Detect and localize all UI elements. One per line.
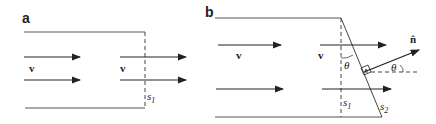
surface-s1-label: s1 bbox=[343, 96, 351, 111]
theta-label: θ bbox=[391, 61, 397, 73]
angle-arc-icon bbox=[341, 55, 353, 58]
surface-s1-label: s1 bbox=[147, 90, 155, 105]
panel-b: b v v θ n̂ θ s1 s2 bbox=[205, 4, 420, 117]
panel-b-label: b bbox=[205, 4, 214, 20]
theta-label: θ bbox=[344, 59, 350, 71]
velocity-label: v bbox=[236, 49, 242, 61]
panel-a: a v v s1 bbox=[22, 10, 186, 108]
surface-s2-label: s2 bbox=[380, 100, 388, 115]
velocity-label: v bbox=[120, 62, 126, 74]
velocity-label: v bbox=[318, 49, 324, 61]
angle-arc-icon bbox=[400, 65, 403, 72]
panel-a-label: a bbox=[22, 10, 30, 26]
velocity-label: v bbox=[29, 62, 35, 74]
normal-vector-label: n̂ bbox=[410, 33, 416, 45]
flux-diagram: a v v s1 b v v θ n̂ θ bbox=[0, 0, 436, 124]
